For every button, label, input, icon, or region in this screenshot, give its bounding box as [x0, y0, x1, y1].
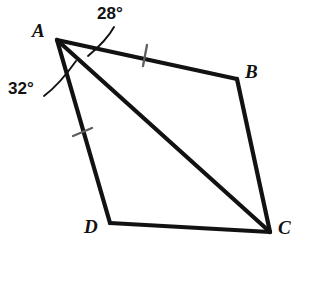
geometry-figure: A B C D 28° 32° — [0, 0, 309, 283]
diagonal-ac — [57, 40, 270, 232]
vertex-label-d: D — [84, 217, 98, 236]
segment-cd — [110, 223, 270, 232]
angle-label-cad: 32° — [8, 80, 34, 97]
vertex-label-a: A — [32, 21, 45, 40]
tick-mark-ab — [143, 45, 147, 66]
vertex-label-c: C — [278, 218, 291, 237]
angle-label-bac: 28° — [97, 5, 123, 22]
vertex-label-b: B — [245, 62, 258, 81]
figure-canvas — [0, 0, 309, 283]
